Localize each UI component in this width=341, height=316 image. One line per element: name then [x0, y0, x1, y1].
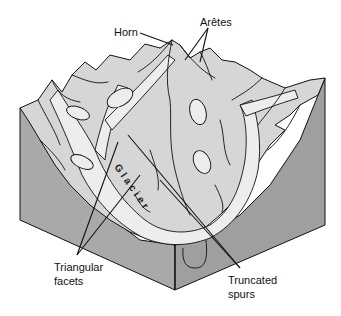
triangular-facets-label-line2: facets	[54, 275, 84, 287]
horn-leader	[140, 33, 173, 45]
glacial-landscape-diagram: Glacier Horn Arêtes Triangular facets Tr…	[0, 0, 341, 316]
aretes-label: Arêtes	[200, 16, 232, 28]
truncated-spurs-label-line1: Truncated	[228, 274, 277, 286]
triangular-facets-label-line1: Triangular	[54, 261, 103, 273]
truncated-spurs-label-line2: spurs	[228, 288, 255, 300]
horn-label: Horn	[114, 26, 138, 38]
